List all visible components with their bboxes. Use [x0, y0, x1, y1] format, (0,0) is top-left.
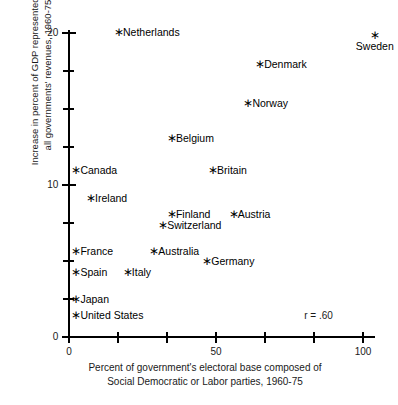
data-point-label: Australia	[158, 246, 199, 257]
y-axis-title-line-2: all governments' revenues, 1960-75	[41, 0, 54, 190]
data-point-label: Italy	[132, 267, 151, 278]
y-axis-title-line-1: Increase in percent of GDP represented b…	[28, 0, 41, 190]
x-tick-major	[68, 332, 70, 343]
x-tick-minor	[166, 332, 168, 343]
x-axis-title: Percent of government's electoral base c…	[40, 361, 370, 389]
data-point-label: Spain	[80, 267, 107, 278]
y-tick-minor	[63, 108, 74, 110]
data-point-label: Netherlands	[123, 27, 180, 38]
correlation-annotation: r = .60	[304, 310, 333, 321]
data-point-label: Japan	[80, 294, 109, 305]
data-point-label: Germany	[211, 256, 254, 267]
x-tick-minor	[117, 332, 119, 343]
y-tick-label: 0	[28, 331, 58, 342]
x-tick-label: 0	[49, 346, 89, 357]
y-tick-minor	[63, 70, 74, 72]
y-tick-major	[62, 32, 76, 34]
data-point-label: Belgium	[176, 133, 214, 144]
x-tick-minor	[313, 332, 315, 343]
scatter-plot-figure: 01020050100 ∗Netherlands∗Sweden∗Denmark∗…	[0, 0, 398, 405]
y-axis-title: Increase in percent of GDP represented b…	[28, 0, 54, 190]
data-point-label: Sweden	[356, 41, 394, 52]
x-axis-line	[68, 336, 375, 338]
data-point-label: Switzerland	[167, 220, 221, 231]
x-tick-label: 50	[196, 346, 236, 357]
x-tick-major	[215, 332, 217, 343]
data-point-label: Ireland	[95, 193, 127, 204]
x-axis-title-line-2: Social Democratic or Labor parties, 1960…	[40, 375, 370, 389]
x-tick-minor	[264, 332, 266, 343]
data-point-label: France	[80, 246, 113, 257]
y-tick-minor	[63, 222, 74, 224]
x-tick-label: 100	[343, 346, 383, 357]
x-tick-major	[362, 332, 364, 343]
y-tick-major	[62, 184, 76, 186]
data-point-label: Norway	[252, 98, 288, 109]
data-point-label: Austria	[238, 209, 271, 220]
data-point-label: Britain	[217, 165, 247, 176]
x-axis-title-line-1: Percent of government's electoral base c…	[40, 361, 370, 375]
data-point-label: United States	[80, 310, 143, 321]
data-point-label: Canada	[80, 165, 117, 176]
y-tick-minor	[63, 146, 74, 148]
y-tick-minor	[63, 260, 74, 262]
data-point-label: Denmark	[264, 59, 307, 70]
